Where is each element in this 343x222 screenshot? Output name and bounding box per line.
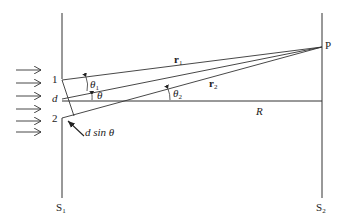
- r1-label: r1: [174, 53, 183, 67]
- screen-s1-label: S1: [56, 201, 66, 215]
- slit-1-label: 1: [52, 73, 58, 85]
- double-slit-diagram: 1 2 d θ1 θ θ2 r1 r2 R P d sin θ S1 S2: [0, 0, 343, 222]
- screen-s2-label: S2: [316, 201, 326, 215]
- theta2-arc: [168, 89, 170, 100]
- theta1-arc: [86, 77, 88, 91]
- point-P-label: P: [325, 39, 331, 51]
- theta-label: θ: [97, 89, 103, 101]
- distance-R-label: R: [255, 105, 263, 117]
- path-difference-label: d sin θ: [85, 126, 115, 138]
- ray-r1: [62, 47, 322, 80]
- path-difference-arrow: [68, 121, 84, 136]
- theta2-label: θ2: [173, 87, 182, 101]
- perpendicular-line: [62, 80, 74, 116]
- ray-r2: [62, 47, 322, 118]
- incoming-wave-arrows: [16, 70, 41, 132]
- r2-label: r2: [209, 77, 218, 91]
- slit-2-label: 2: [52, 112, 58, 124]
- separation-label: d: [52, 92, 58, 104]
